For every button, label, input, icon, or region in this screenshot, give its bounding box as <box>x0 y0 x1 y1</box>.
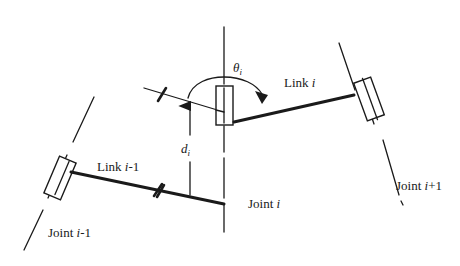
joint-prev-label: Joint i-1 <box>48 225 91 240</box>
joint-prev-box <box>44 156 76 200</box>
link-cur <box>234 95 354 122</box>
link-prev-label: Link i-1 <box>97 159 139 174</box>
theta-label: θi <box>233 60 242 77</box>
dh-diagram: di θi Link i-1 Link i Joint i-1 Joint i … <box>0 0 460 266</box>
link-prev <box>71 172 224 204</box>
joint-next-axis <box>339 43 403 205</box>
common-normal-upper <box>144 88 224 112</box>
offset-d-label: di <box>181 141 191 158</box>
joint-next-label: Joint i+1 <box>396 178 442 193</box>
joint-cur-label: Joint i <box>248 196 281 211</box>
link-cur-label: Link i <box>284 75 316 90</box>
joint-cur-box <box>216 86 233 125</box>
joint-next-box <box>354 77 385 121</box>
